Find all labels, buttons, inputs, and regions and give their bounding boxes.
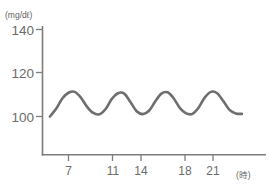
glucose-chart: (mg/dℓ) 140 120 100 7 11 14 18 21 (時) [0,0,269,187]
y-tick-label-100: 100 [11,110,34,125]
y-tick-label-120: 120 [11,66,34,81]
x-tick-label-11: 11 [107,164,120,178]
x-tick-label-14: 14 [134,164,148,178]
y-axis-unit-label: (mg/dℓ) [5,10,32,20]
y-tick-label-140: 140 [11,23,34,38]
x-axis-unit-label: (時) [236,170,251,180]
glucose-curve [50,91,242,116]
x-tick-label-18: 18 [178,164,192,178]
x-tick-label-7: 7 [65,164,72,178]
x-tick-label-21: 21 [206,164,220,178]
chart-canvas: (mg/dℓ) 140 120 100 7 11 14 18 21 (時) [0,0,269,187]
